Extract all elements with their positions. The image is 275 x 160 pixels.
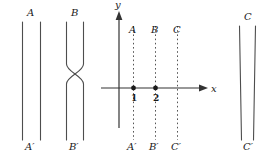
line-B-left (67, 22, 84, 140)
label-point-1: 1 (131, 94, 137, 103)
x-axis-arrowhead (199, 85, 208, 92)
label-guide-c-bottom: C′ (171, 142, 181, 152)
line-B-right (67, 22, 84, 140)
label-guide-a-top: A (129, 25, 136, 35)
label-y-axis: y (115, 0, 121, 10)
label-panel-c-top: C (244, 12, 252, 22)
line-C-left (240, 26, 242, 140)
point-2-marker (153, 86, 158, 91)
label-panel-a-bottom: A′ (25, 142, 35, 152)
label-guide-b-bottom: B′ (149, 142, 159, 152)
label-guide-a-bottom: A′ (127, 142, 137, 152)
diagram-vector-layer (0, 0, 275, 160)
label-panel-c-bottom: C′ (243, 142, 253, 152)
line-C-right (254, 26, 256, 140)
panel-c-lines (240, 26, 256, 140)
label-guide-b-top: B (151, 25, 158, 35)
label-panel-b-bottom: B′ (69, 142, 79, 152)
panel-b-lines (67, 22, 84, 140)
diagram-canvas: A A′ B B′ y x A B C A′ B′ C′ 1 2 C C′ (0, 0, 275, 160)
point-1-marker (131, 86, 136, 91)
label-point-2: 2 (153, 94, 159, 103)
label-panel-a-top: A (27, 8, 34, 18)
dashed-guides (134, 26, 178, 140)
y-axis-arrowhead (116, 11, 123, 20)
label-x-axis: x (211, 84, 217, 94)
panel-a-lines (23, 22, 41, 140)
label-guide-c-top: C (173, 25, 181, 35)
label-panel-b-top: B (71, 8, 78, 18)
